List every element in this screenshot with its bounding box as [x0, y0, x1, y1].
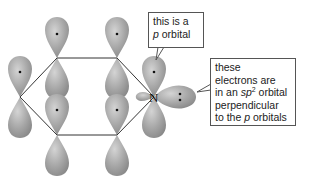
callout-line: these	[215, 61, 291, 74]
nitrogen-label: N	[149, 90, 159, 105]
callout-line: perpendicular	[215, 99, 291, 112]
sp2-orbital-lobes	[136, 85, 196, 108]
callout-line: p orbital	[153, 28, 199, 41]
callout-line: electrons are	[215, 74, 291, 87]
callout-tail-sp2	[197, 84, 211, 92]
callout-line: this is a	[153, 15, 199, 28]
ring-bonds	[20, 58, 154, 135]
sp2-callout: these electrons are in an sp2 orbital pe…	[210, 58, 296, 126]
callout-line: to the p orbitals	[215, 111, 291, 124]
callout-line: in an sp2 orbital	[215, 86, 291, 99]
p-orbital-callout: this is a p orbital	[148, 12, 204, 48]
